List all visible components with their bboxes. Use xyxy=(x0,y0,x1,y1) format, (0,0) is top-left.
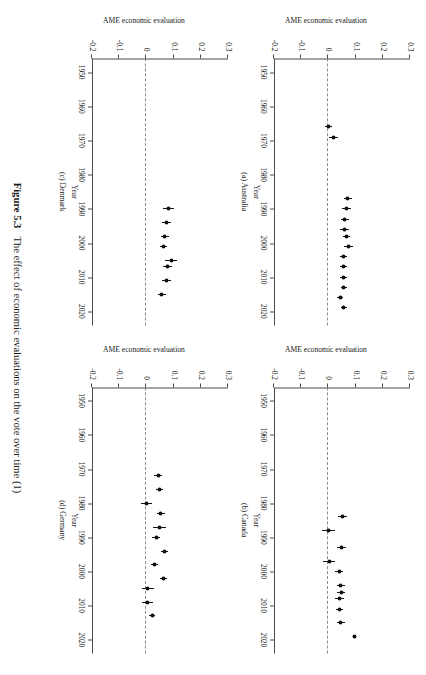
figure-caption: Figure 5.3The effect of economic evaluat… xyxy=(12,0,23,675)
data-point-group xyxy=(348,58,349,325)
x-axis-tick xyxy=(88,243,92,244)
confidence-interval-whisker xyxy=(329,136,337,137)
y-axis-tick xyxy=(300,54,301,58)
confidence-interval-whisker xyxy=(162,222,171,223)
y-axis-tick xyxy=(273,54,274,58)
confidence-interval-whisker xyxy=(344,245,353,246)
confidence-interval-whisker xyxy=(160,577,167,578)
panel-denmark: AME economic evaluation 0.30.20.10-0.1-0… xyxy=(54,12,234,335)
data-point-group xyxy=(166,58,167,325)
figure-caption-text: The effect of economic evaluations on th… xyxy=(12,236,23,493)
data-point-group xyxy=(163,387,164,654)
x-axis-label: Year xyxy=(70,58,79,325)
y-axis-tick-label: -0.1 xyxy=(115,39,124,51)
confidence-interval-whisker xyxy=(340,276,347,277)
y-axis-tick-label: 0.3 xyxy=(224,42,233,51)
confidence-interval-whisker xyxy=(322,530,335,531)
x-axis-tick xyxy=(270,537,274,538)
x-axis-line xyxy=(92,387,93,654)
x-axis-tick xyxy=(88,605,92,606)
x-axis-label: Year xyxy=(252,387,261,654)
x-axis-tick xyxy=(270,277,274,278)
x-axis-tick xyxy=(88,311,92,312)
plot-area-germany: 0.30.20.10-0.1-0.21950196019701980199020… xyxy=(92,387,228,654)
confidence-interval-whisker xyxy=(342,208,351,209)
y-axis-tick-label: 0.1 xyxy=(169,370,178,379)
y-axis-tick-label: 0 xyxy=(324,47,333,51)
confidence-interval-whisker xyxy=(158,293,166,294)
y-axis-tick-label: 0.2 xyxy=(378,370,387,379)
y-axis-tick xyxy=(200,54,201,58)
y-axis-tick xyxy=(227,54,228,58)
confidence-interval-whisker xyxy=(341,286,348,287)
y-axis-tick xyxy=(409,383,410,387)
x-axis-tick xyxy=(270,434,274,435)
confidence-interval-whisker xyxy=(165,259,176,260)
confidence-interval-whisker xyxy=(337,547,347,548)
y-axis-tick-label: -0.2 xyxy=(270,39,279,51)
confidence-interval-whisker xyxy=(341,307,348,308)
panel-canada: AME economic evaluation 0.30.20.10-0.1-0… xyxy=(236,341,416,664)
data-point-group xyxy=(340,58,341,325)
confidence-interval-whisker xyxy=(142,601,153,602)
y-axis-label: AME economic evaluation xyxy=(69,16,219,25)
y-axis-tick xyxy=(200,383,201,387)
data-point-group xyxy=(147,387,148,654)
y-axis-tick xyxy=(355,383,356,387)
x-axis-line xyxy=(274,58,275,325)
confidence-interval-whisker xyxy=(154,475,162,476)
x-axis-line xyxy=(92,58,93,325)
panel-germany: AME economic evaluation 0.30.20.10-0.1-0… xyxy=(54,341,234,664)
x-axis-tick xyxy=(88,400,92,401)
data-point-group xyxy=(160,387,161,654)
x-axis-tick xyxy=(88,140,92,141)
zero-reference-line xyxy=(145,58,146,325)
x-axis-tick xyxy=(88,469,92,470)
confidence-interval-whisker xyxy=(163,208,174,209)
y-axis-tick-label: -0.2 xyxy=(88,368,97,380)
x-axis-tick xyxy=(88,72,92,73)
y-axis-tick-label: 0.2 xyxy=(196,370,205,379)
y-axis-tick xyxy=(327,54,328,58)
confidence-interval-whisker xyxy=(337,591,345,592)
data-point-group xyxy=(156,387,157,654)
data-point-group xyxy=(159,387,160,654)
y-axis-tick-label: -0.1 xyxy=(297,39,306,51)
x-axis-tick xyxy=(88,174,92,175)
panel-caption-germany: (d) Germany xyxy=(58,387,67,654)
y-axis-tick xyxy=(227,383,228,387)
confidence-interval-whisker xyxy=(152,536,160,537)
data-point-group xyxy=(161,58,162,325)
confidence-interval-whisker xyxy=(340,266,347,267)
x-axis-tick xyxy=(270,243,274,244)
x-axis-tick xyxy=(88,571,92,572)
data-point-group xyxy=(163,58,164,325)
data-point-group xyxy=(329,387,330,654)
y-axis-tick-label: 0 xyxy=(142,47,151,51)
y-axis-tick xyxy=(382,54,383,58)
panel-caption-australia: (a) Australia xyxy=(240,58,249,325)
y-axis-tick xyxy=(355,54,356,58)
x-axis-tick xyxy=(270,208,274,209)
y-axis-tick-label: 0.3 xyxy=(406,370,415,379)
confidence-interval-whisker xyxy=(341,218,349,219)
confidence-interval-whisker xyxy=(335,598,344,599)
figure-page: AME economic evaluation 0.30.20.10-0.1-0… xyxy=(0,0,426,675)
x-axis-tick xyxy=(88,503,92,504)
data-point-group xyxy=(340,387,341,654)
data-point-group xyxy=(333,58,334,325)
x-axis-tick xyxy=(270,400,274,401)
figure-stage: AME economic evaluation 0.30.20.10-0.1-0… xyxy=(0,0,426,675)
y-axis-tick xyxy=(173,383,174,387)
y-axis-tick xyxy=(145,383,146,387)
plot-area-canada: 0.30.20.10-0.1-0.21950196019701980199020… xyxy=(274,387,410,654)
data-point-group xyxy=(171,58,172,325)
data-point-group xyxy=(346,58,347,325)
x-axis-line xyxy=(274,387,275,654)
y-axis-tick xyxy=(91,383,92,387)
figure-number: Figure 5.3 xyxy=(12,182,23,228)
x-axis-tick xyxy=(270,639,274,640)
y-axis-tick-label: -0.2 xyxy=(88,39,97,51)
y-axis-tick xyxy=(91,54,92,58)
y-axis-tick xyxy=(300,383,301,387)
